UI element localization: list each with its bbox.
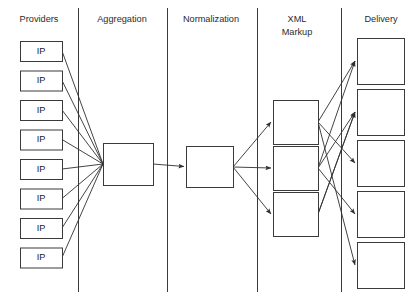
provider-node-label-7: IP [37, 223, 46, 233]
provider-node-8[interactable]: IP [21, 248, 63, 268]
edge-provider-3-to-aggregation [62, 110, 103, 164]
edge-xml-2-to-delivery-2 [318, 112, 355, 168]
column-title-normalization: Normalization [183, 14, 239, 24]
provider-node-4[interactable]: IP [21, 130, 63, 150]
delivery-node-1[interactable] [358, 39, 405, 85]
column-title-xml-markup: Markup [282, 27, 313, 37]
provider-node-label-5: IP [37, 164, 46, 174]
provider-node-label-2: IP [37, 75, 46, 85]
provider-node-label-6: IP [37, 193, 46, 203]
delivery-node-5[interactable] [358, 243, 405, 289]
provider-node-1[interactable]: IP [21, 42, 63, 62]
edge-aggregation-to-normalization [153, 164, 184, 167]
edge-provider-1-to-aggregation [62, 51, 103, 164]
edge-xml-2-to-delivery-1 [318, 61, 355, 168]
column-title-delivery: Delivery [364, 14, 398, 24]
edge-normalization-to-xml-3 [233, 167, 271, 214]
provider-node-label-3: IP [37, 105, 46, 115]
normalization-node[interactable] [187, 147, 234, 188]
aggregation-node[interactable] [104, 144, 154, 186]
column-title-xml-markup: XML [288, 14, 307, 24]
edge-xml-2-to-delivery-4 [318, 168, 355, 214]
edge-xml-3-to-delivery-2 [318, 112, 355, 214]
xml-markup-node-3[interactable] [274, 193, 319, 237]
column-title-aggregation: Aggregation [97, 14, 147, 24]
xml-markup-node-2-rect[interactable] [274, 147, 319, 191]
delivery-node-4-rect[interactable] [358, 192, 405, 238]
edge-provider-6-to-aggregation [62, 164, 103, 199]
xml-markup-node-2[interactable] [274, 147, 319, 191]
pipeline-diagram: ProvidersAggregationNormalizationXMLMark… [0, 0, 419, 300]
provider-node-label-8: IP [37, 252, 46, 262]
aggregation-node-rect[interactable] [104, 144, 154, 186]
delivery-node-3[interactable] [358, 141, 405, 187]
normalization-node-rect[interactable] [187, 147, 234, 188]
delivery-node-2[interactable] [358, 90, 405, 136]
column-title-providers: Providers [20, 14, 59, 24]
edge-normalization-to-xml-2 [233, 167, 271, 168]
edge-provider-8-to-aggregation [62, 164, 103, 258]
provider-node-2[interactable]: IP [21, 71, 63, 91]
edge-normalization-to-xml-1 [233, 122, 271, 167]
delivery-node-4[interactable] [358, 192, 405, 238]
provider-node-label-4: IP [37, 134, 46, 144]
provider-node-7[interactable]: IP [21, 219, 63, 239]
xml-markup-node-1-rect[interactable] [274, 101, 319, 145]
edge-provider-7-to-aggregation [62, 164, 103, 228]
delivery-node-2-rect[interactable] [358, 90, 405, 136]
edge-provider-5-to-aggregation [62, 164, 103, 169]
provider-node-label-1: IP [37, 46, 46, 56]
delivery-node-3-rect[interactable] [358, 141, 405, 187]
delivery-node-1-rect[interactable] [358, 39, 405, 85]
provider-node-3[interactable]: IP [21, 101, 63, 121]
edge-xml-1-to-delivery-1 [318, 61, 355, 122]
edge-xml-1-to-delivery-5 [318, 122, 355, 265]
provider-node-6[interactable]: IP [21, 189, 63, 209]
diagram-canvas: ProvidersAggregationNormalizationXMLMark… [0, 0, 419, 300]
delivery-node-5-rect[interactable] [358, 243, 405, 289]
xml-markup-node-3-rect[interactable] [274, 193, 319, 237]
provider-node-5[interactable]: IP [21, 160, 63, 180]
xml-markup-node-1[interactable] [274, 101, 319, 145]
